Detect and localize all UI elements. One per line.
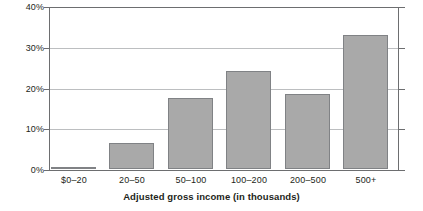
- plot-area: [49, 7, 399, 170]
- bar-3[interactable]: [226, 71, 271, 169]
- x-tick-label-3: 100–200: [219, 175, 279, 185]
- y-tick-mark-right-10: [399, 129, 405, 130]
- x-tick-label-5: 500+: [336, 175, 396, 185]
- y-tick-label-0: 0%: [31, 166, 44, 175]
- y-tick-label-10: 10%: [26, 125, 44, 134]
- bar-4[interactable]: [285, 94, 330, 169]
- bar-chart: 40% 30% 20% 10% 0% $0–20 20–: [0, 0, 423, 211]
- y-axis-line: [49, 7, 50, 171]
- bar-2[interactable]: [168, 98, 213, 169]
- y-tick-label-20: 20%: [26, 85, 44, 94]
- right-axis-line: [398, 7, 399, 171]
- bar-1[interactable]: [109, 143, 154, 169]
- y-tick-label-30: 30%: [26, 44, 44, 53]
- y-tick-label-40: 40%: [26, 3, 44, 12]
- y-tick-mark-right-20: [399, 89, 405, 90]
- x-tick-label-2: 50–100: [161, 175, 221, 185]
- x-axis-line: [49, 170, 399, 171]
- bar-0[interactable]: [51, 167, 96, 169]
- bar-5[interactable]: [343, 35, 388, 169]
- x-tick-label-4: 200–500: [278, 175, 338, 185]
- gridline-40: [49, 7, 399, 8]
- x-tick-label-1: 20–50: [102, 175, 162, 185]
- x-axis-title: Adjusted gross income (in thousands): [0, 191, 423, 202]
- y-tick-mark-right-40: [399, 7, 405, 8]
- y-tick-mark-right-0: [399, 170, 405, 171]
- y-tick-mark-right-30: [399, 48, 405, 49]
- x-tick-label-0: $0–20: [44, 175, 104, 185]
